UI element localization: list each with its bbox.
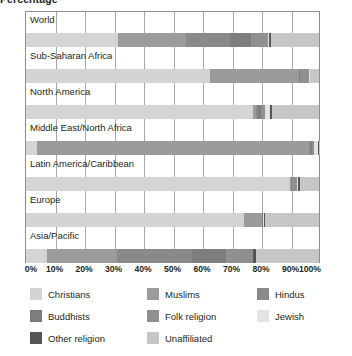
bar-segment-unaffiliated [272, 105, 319, 119]
bar-segment-folk-religion [300, 69, 310, 83]
religion-composition-chart: Percentage WorldSub-Saharan AfricaNorth … [0, 0, 352, 356]
x-axis-tick-label: 60% [193, 264, 210, 274]
row-label: World [30, 14, 55, 25]
legend-item-hindus[interactable]: Hindus [257, 288, 305, 300]
bar-segment-muslims [37, 141, 310, 155]
stacked-bar [26, 177, 319, 191]
bar-segment-muslims [244, 213, 261, 227]
legend-swatch-christians [30, 288, 42, 300]
legend-swatch-muslims [147, 288, 159, 300]
legend-item-folk-religion[interactable]: Folk religion [147, 310, 216, 322]
legend-label: Muslims [165, 289, 200, 300]
legend-item-unaffiliated[interactable]: Unaffiliated [147, 332, 212, 344]
bar-segment-christians [26, 249, 47, 263]
legend-row: ChristiansMuslimsHindus [0, 288, 352, 310]
bar-segment-unaffiliated [310, 69, 319, 83]
stacked-bar [26, 69, 319, 83]
legend-label: Other religion [48, 333, 105, 344]
bar-segment-christians [26, 33, 118, 47]
stacked-bar [26, 33, 319, 47]
x-axis-tick-label: 20% [75, 264, 92, 274]
chart-row: Latin America/Caribbean [26, 156, 319, 192]
legend-swatch-buddhists [30, 310, 42, 322]
row-label: Middle East/North Africa [30, 122, 132, 133]
bar-segment-hindus [186, 33, 230, 47]
bar-segment-christians [26, 105, 253, 119]
legend-row: Other religionUnaffiliated [0, 332, 352, 354]
bar-segment-unaffiliated [271, 33, 319, 47]
x-axis-tick-label: 40% [134, 264, 151, 274]
legend-label: Hindus [275, 289, 305, 300]
legend-item-christians[interactable]: Christians [30, 288, 90, 300]
row-label: Europe [30, 194, 61, 205]
bar-segment-unaffiliated [265, 213, 319, 227]
stacked-bar [26, 141, 319, 155]
chart-legend: ChristiansMuslimsHindusBuddhistsFolk rel… [0, 288, 352, 354]
bar-segment-folk-religion [251, 33, 268, 47]
bar-segment-unaffiliated [256, 249, 319, 263]
legend-swatch-folk-religion [147, 310, 159, 322]
legend-item-buddhists[interactable]: Buddhists [30, 310, 90, 322]
x-axis-tick-label: 30% [105, 264, 122, 274]
chart-row: North America [26, 84, 319, 120]
x-axis-tick-label: 50% [164, 264, 181, 274]
legend-item-muslims[interactable]: Muslims [147, 288, 200, 300]
chart-row: Middle East/North Africa [26, 120, 319, 156]
bar-segment-folk-religion [226, 249, 252, 263]
bar-segment-muslims [210, 69, 299, 83]
bar-segment-buddhists [192, 249, 227, 263]
plot-area: WorldSub-Saharan AfricaNorth AmericaMidd… [25, 11, 320, 263]
x-axis-tick-label: 100% [299, 264, 321, 274]
legend-swatch-other-religion [30, 332, 42, 344]
stacked-bar [26, 213, 319, 227]
stacked-bar [26, 249, 319, 263]
bar-segment-christians [26, 141, 37, 155]
chart-row: Sub-Saharan Africa [26, 48, 319, 84]
legend-row: BuddhistsFolk religionJewish [0, 310, 352, 332]
page-title: Percentage [0, 0, 58, 5]
legend-label: Christians [48, 289, 90, 300]
bar-segment-christians [26, 177, 290, 191]
bar-segment-buddhists [230, 33, 251, 47]
row-label: Latin America/Caribbean [30, 158, 134, 169]
legend-label: Folk religion [165, 311, 216, 322]
legend-item-other-religion[interactable]: Other religion [30, 332, 105, 344]
legend-swatch-unaffiliated [147, 332, 159, 344]
x-axis-tick-label: 10% [46, 264, 63, 274]
chart-row: Europe [26, 192, 319, 228]
bar-rows: WorldSub-Saharan AfricaNorth AmericaMidd… [26, 12, 319, 262]
row-label: North America [30, 86, 90, 97]
bar-segment-christians [26, 213, 244, 227]
legend-swatch-jewish [257, 310, 269, 322]
x-axis-tick-label: 0% [25, 264, 37, 274]
legend-label: Jewish [275, 311, 304, 322]
legend-label: Unaffiliated [165, 333, 212, 344]
stacked-bar [26, 105, 319, 119]
bar-segment-hindus [117, 249, 191, 263]
x-axis-tick-label: 80% [252, 264, 269, 274]
bar-segment-muslims [118, 33, 186, 47]
chart-row: Asia/Pacific [26, 228, 319, 264]
row-label: Sub-Saharan Africa [30, 50, 112, 61]
row-label: Asia/Pacific [30, 230, 79, 241]
x-axis: 0%10%20%30%40%50%60%70%80%90%100% [0, 264, 352, 280]
x-axis-tick-label: 90% [282, 264, 299, 274]
legend-label: Buddhists [48, 311, 90, 322]
bar-segment-unaffiliated [300, 177, 319, 191]
bar-segment-muslims [47, 249, 118, 263]
x-axis-tick-label: 70% [223, 264, 240, 274]
legend-item-jewish[interactable]: Jewish [257, 310, 304, 322]
chart-row: World [26, 12, 319, 48]
legend-swatch-hindus [257, 288, 269, 300]
bar-segment-christians [26, 69, 210, 83]
